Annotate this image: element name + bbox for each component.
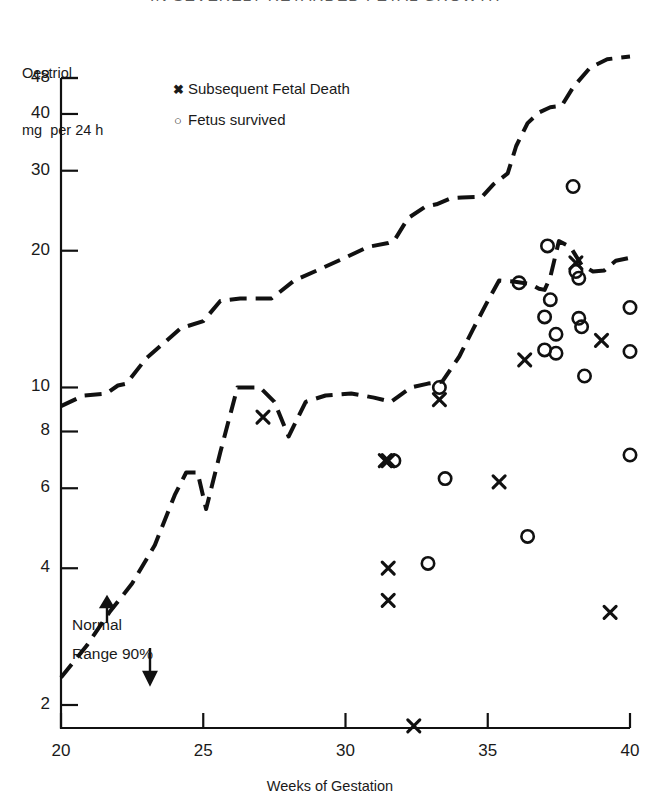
data-point-fetus-survived (544, 294, 556, 306)
data-point-fetal-death (382, 594, 394, 606)
data-point-fetal-death (433, 394, 445, 406)
data-point-fetus-survived (541, 240, 553, 252)
axis-lines (61, 78, 630, 728)
data-point-fetus-survived (550, 328, 562, 340)
normal-range-curve-upper (61, 57, 630, 407)
data-point-fetus-survived (550, 347, 562, 359)
data-point-fetus-survived (624, 449, 636, 461)
data-point-fetus-survived (433, 381, 445, 393)
data-point-fetal-death (382, 562, 394, 574)
chart-figure: IN SEVERELY RETARDED FETAL GROWTH Oestri… (0, 0, 660, 812)
data-point-fetus-survived (521, 530, 533, 542)
data-point-fetus-survived (624, 301, 636, 313)
data-point-fetal-death (408, 720, 420, 732)
normal-range-lower-arrow-icon (144, 648, 156, 684)
normal-range-curve-lower (61, 241, 630, 677)
data-point-fetal-death (493, 476, 505, 488)
data-point-fetal-death (604, 606, 616, 618)
data-point-fetus-survived (538, 311, 550, 323)
data-point-fetal-death (257, 411, 269, 423)
data-point-fetal-death (519, 354, 531, 366)
data-point-fetus-survived (422, 557, 434, 569)
data-point-fetus-survived (578, 370, 590, 382)
data-point-fetus-survived (567, 180, 579, 192)
plot-canvas (0, 0, 660, 812)
data-point-fetus-survived (624, 345, 636, 357)
data-point-fetal-death (596, 334, 608, 346)
data-point-fetus-survived (439, 472, 451, 484)
